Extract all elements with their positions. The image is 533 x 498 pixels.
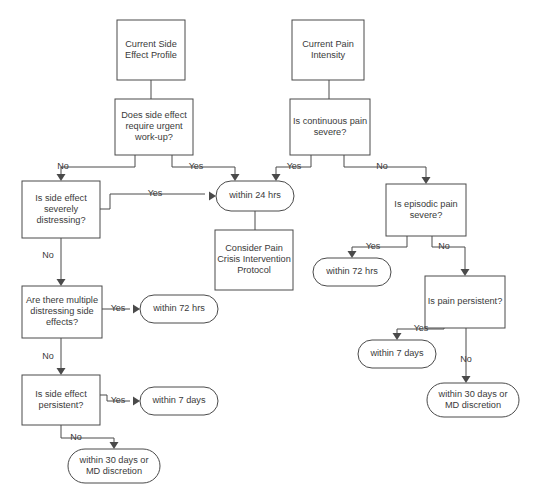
node-label: within 7 days [151, 395, 206, 405]
node-label: within 24 hrs [228, 190, 281, 200]
arrow-head-icon [133, 305, 140, 314]
edge-label-urgent_no: No [57, 161, 69, 171]
node-label: within 72 hrs [325, 266, 378, 276]
arrow-head-icon [462, 376, 471, 383]
arrow-head-icon [110, 442, 119, 449]
node-is_continuous_pain_severe: Is continuous painsevere? [290, 99, 370, 155]
edge-label-pain_persistent_yes: Yes [414, 323, 429, 333]
node-label: Is pain persistent? [428, 296, 503, 306]
node-is_episodic_pain_severe: Is episodic painsevere? [386, 184, 466, 236]
edge-label-distressing_yes: Yes [148, 188, 163, 198]
node-label: Is side effectpersistent? [35, 389, 87, 410]
node-label: Current SideEffect Profile [125, 39, 177, 60]
arrow-head-icon [57, 279, 66, 286]
edge-label-continuous_yes: Yes [287, 161, 302, 171]
arrow-head-icon [133, 397, 140, 406]
node-within_7_days_left: within 7 days [140, 387, 218, 415]
node-within_72_hrs_left: within 72 hrs [140, 295, 218, 323]
node-label: within 7 days [369, 348, 424, 358]
arrow-head-icon [272, 174, 281, 181]
edge-label-multiple_no: No [42, 351, 54, 361]
arrow-head-icon [57, 174, 66, 181]
edge-urgent-yes [172, 155, 235, 174]
arrow-head-icon [461, 269, 470, 276]
node-multiple_distressing_side_effects: Are there multipledistressing sideeffect… [22, 286, 102, 338]
edge-label-distressing_no: No [42, 250, 54, 260]
node-label: within 30 days orMD discretion [79, 455, 149, 476]
flowchart-diagram: Current SideEffect ProfileDoes side effe… [0, 0, 533, 498]
node-within_7_days_right: within 7 days [358, 340, 436, 368]
edge-label-persistent_yes_left: Yes [111, 395, 126, 405]
arrow-head-icon [422, 177, 431, 184]
node-current_side_effect_profile: Current SideEffect Profile [117, 20, 185, 80]
arrow-head-icon [209, 192, 216, 201]
edge-label-episodic_no: No [438, 241, 450, 251]
arrow-head-icon [393, 333, 402, 340]
edge-label-urgent_yes: Yes [189, 161, 204, 171]
flowchart-canvas: Current SideEffect ProfileDoes side effe… [0, 0, 533, 498]
node-does_side_effect_urgent: Does side effectrequire urgentwork-up? [115, 99, 193, 155]
node-current_pain_intensity: Current PainIntensity [292, 20, 364, 80]
node-is_side_effect_persistent: Is side effectpersistent? [22, 375, 100, 425]
arrow-head-icon [57, 368, 66, 375]
node-within_30_days_right: within 30 days orMD discretion [427, 383, 519, 417]
node-label: within 72 hrs [152, 303, 205, 313]
edge-label-continuous_no: No [376, 161, 388, 171]
node-is_pain_persistent: Is pain persistent? [425, 276, 505, 328]
edge-label-multiple_yes: Yes [111, 303, 126, 313]
node-label: within 30 days orMD discretion [438, 389, 508, 410]
node-within_24_hrs: within 24 hrs [216, 181, 294, 211]
edge-label-persistent_no_left: No [70, 432, 82, 442]
node-within_30_days_left: within 30 days orMD discretion [68, 449, 160, 483]
edge-urgent-no [61, 155, 135, 174]
arrow-head-icon [348, 251, 357, 258]
edge-label-pain_persistent_no: No [460, 354, 472, 364]
node-within_72_hrs_right: within 72 hrs [313, 258, 391, 286]
node-consider_pain_crisis_protocol: Consider PainCrisis InterventionProtocol [215, 230, 293, 290]
arrow-head-icon [231, 174, 240, 181]
edge-label-episodic_yes: Yes [366, 241, 381, 251]
nodes-layer: Current SideEffect ProfileDoes side effe… [22, 20, 519, 483]
node-is_side_effect_distressing: Is side effectseverelydistressing? [22, 181, 100, 238]
edge-persistent-no-left [61, 425, 114, 442]
